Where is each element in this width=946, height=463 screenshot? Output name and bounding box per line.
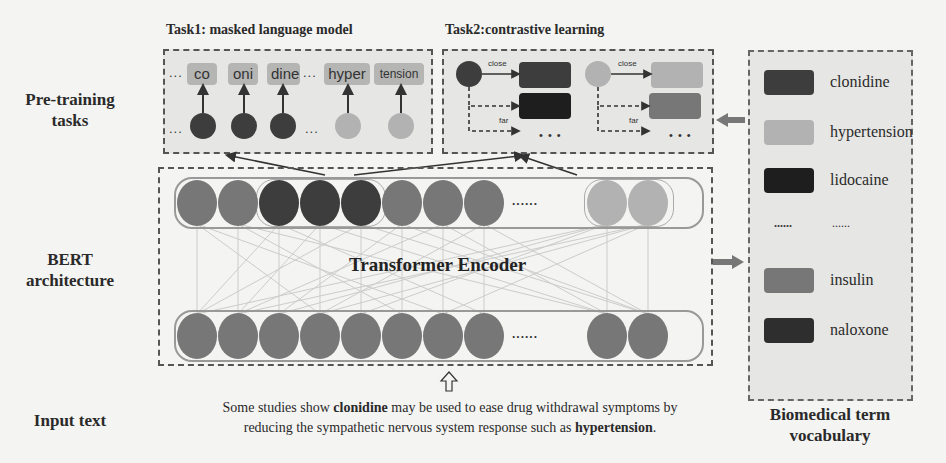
output-embedding (382, 180, 422, 226)
output-embedding (177, 180, 217, 226)
label-vocabulary: Biomedical term vocabulary (760, 404, 900, 446)
transformer-encoder-box: ...... Transformer Encoder ...... (158, 167, 713, 366)
sentence-line-1: Some studies show clonidine may be used … (150, 398, 750, 418)
ellipsis: ...... (512, 327, 538, 341)
sentence-line-2: reducing the sympathetic nervous system … (150, 418, 750, 438)
contrastive-arrows (444, 51, 716, 156)
task2-box: close far • • • close far • • • (442, 49, 714, 154)
label-line: BERT (0, 249, 140, 270)
output-embedding-hypertension (587, 180, 627, 226)
label-pretraining-tasks: Pre-training tasks (0, 89, 140, 131)
output-embedding (423, 180, 463, 226)
output-embedding-clonidine (259, 180, 299, 226)
vocab-naloxone: naloxone (830, 321, 889, 339)
input-embedding (341, 313, 381, 359)
input-embedding (382, 313, 422, 359)
label-line: Pre-training (0, 89, 140, 110)
output-embedding (464, 180, 504, 226)
input-embedding (259, 313, 299, 359)
highlight-hypertension: hypertension (575, 420, 653, 435)
swatch-insulin (764, 268, 814, 293)
label-bert-architecture: BERT architecture (0, 249, 140, 291)
vocab-lidocaine: lidocaine (830, 171, 889, 189)
input-embedding (218, 313, 258, 359)
label-line: Biomedical term (760, 404, 900, 425)
text: reducing the sympathetic nervous system … (244, 420, 575, 435)
label-line: tasks (0, 110, 140, 131)
output-embedding-hypertension (628, 180, 668, 226)
task1-title: Task1: masked language model (166, 22, 353, 38)
swatch-naloxone (764, 318, 814, 343)
vocabulary-box: clonidine hypertension lidocaine ...... … (748, 50, 913, 401)
mlm-arrows (165, 51, 435, 156)
swatch-hypertension (764, 120, 814, 145)
output-embedding-clonidine (341, 180, 381, 226)
input-embedding (464, 313, 504, 359)
ellipsis: ...... (512, 194, 538, 208)
vocab-insulin: insulin (830, 271, 874, 289)
encoder-title: Transformer Encoder (160, 254, 715, 276)
swatch-lidocaine (764, 168, 814, 193)
input-embedding (177, 313, 217, 359)
input-embedding (300, 313, 340, 359)
label-line: vocabulary (760, 425, 900, 446)
input-embedding (628, 313, 668, 359)
input-embedding (423, 313, 463, 359)
output-embedding (218, 180, 258, 226)
label-line: architecture (0, 270, 140, 291)
vocab-hypertension: hypertension (830, 123, 913, 141)
highlight-clonidine: clonidine (333, 400, 387, 415)
vocab-ellipsis-label: ...... (832, 216, 850, 231)
input-sentence: Some studies show clonidine may be used … (150, 398, 750, 438)
input-embedding (587, 313, 627, 359)
vocab-clonidine: clonidine (830, 73, 890, 91)
label-input-text: Input text (0, 410, 140, 431)
output-embedding-clonidine (300, 180, 340, 226)
text: may be used to ease drug withdrawal symp… (388, 400, 678, 415)
text: . (653, 420, 657, 435)
task1-box: ... co oni dine ... hyper tension ... ..… (163, 49, 433, 154)
task2-title: Task2:contrastive learning (445, 22, 604, 38)
text: Some studies show (223, 400, 334, 415)
vocab-ellipsis-swatch: ...... (774, 216, 792, 231)
swatch-clonidine (764, 70, 814, 95)
